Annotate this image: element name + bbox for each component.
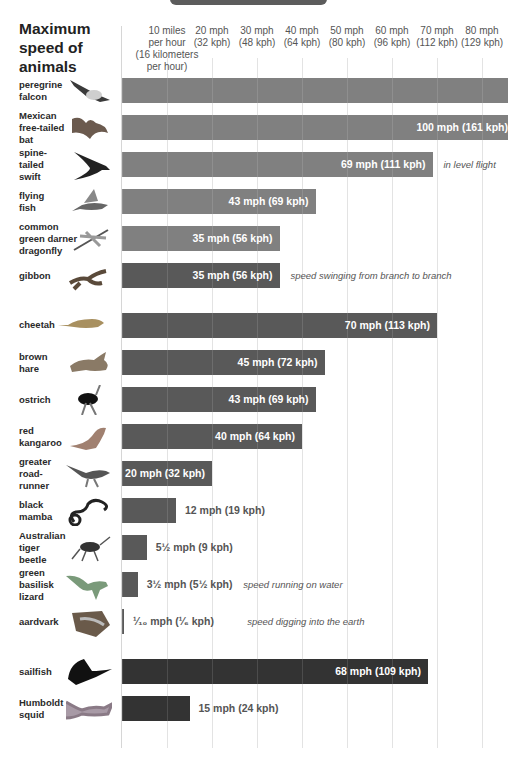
tick-label: 30 mph(48 kph): [239, 25, 276, 49]
bar: [122, 535, 147, 560]
row-label: gibbon: [19, 270, 51, 282]
row-label: greaterroad-runner: [19, 456, 51, 492]
bar-value: 3½ mph (5½ kph): [147, 572, 233, 597]
bar: [122, 498, 176, 523]
kangaroo-icon: [66, 422, 112, 452]
ostrich-icon: [66, 385, 112, 415]
row-label: sailfish: [19, 666, 52, 678]
bar-note: in level flight: [444, 152, 496, 177]
bar-value: 35 mph (56 kph): [193, 226, 273, 251]
tick-label: 40 mph(64 kph): [284, 25, 321, 49]
bar-value: 43 mph (69 kph): [229, 387, 309, 412]
row-label: brownhare: [19, 351, 48, 375]
row-label: ostrich: [19, 394, 51, 406]
sailfish-icon: [66, 657, 112, 687]
bar-value: 35 mph (56 kph): [193, 263, 273, 288]
bat-icon: [66, 113, 112, 143]
row-label: aardvark: [19, 616, 59, 628]
bar: [122, 609, 124, 634]
tick-label: 60 mph(96 kph): [374, 25, 411, 49]
bar-value: 20 mph (32 kph): [125, 461, 205, 486]
bar-value: 40 mph (64 kph): [215, 424, 295, 449]
bar: [122, 78, 508, 103]
bar-value: 12 mph (19 kph): [185, 498, 265, 523]
bar-value: 15 mph (24 kph): [199, 696, 279, 721]
lizard-icon: [66, 570, 112, 600]
bar-value: 100 mph (161 kph): [416, 115, 508, 140]
bar-value: 45 mph (72 kph): [238, 350, 318, 375]
snake-icon: [66, 496, 112, 526]
row-label: Mexicanfree-tailedbat: [19, 110, 64, 146]
bar-value: 68 mph (109 kph): [335, 659, 421, 684]
bar-value: 69 mph (111 kph): [341, 152, 426, 177]
swift-icon: [66, 150, 112, 180]
bar: [122, 696, 190, 721]
bar: [122, 572, 138, 597]
gridline: [437, 58, 438, 748]
row-label: peregrinefalcon: [19, 79, 62, 103]
bar-value: 5½ mph (9 kph): [156, 535, 233, 560]
aardvark-icon: [66, 607, 112, 637]
row-label: Humboldtsquid: [19, 697, 63, 721]
header-banner: [170, 0, 327, 5]
bar-value: ¹⁄₁₀ mph (¹⁄₆ kph): [133, 609, 214, 634]
tick-label: 50 mph(80 kph): [329, 25, 366, 49]
dragonfly-icon: [66, 224, 112, 254]
tick-label: 10 milesper hour(16 kilometersper hour): [136, 25, 199, 73]
tick-label: 80 mph(129 kph): [461, 25, 503, 49]
gibbon-icon: [66, 261, 112, 291]
row-label: blackmamba: [19, 499, 52, 523]
bar-note: speed running on water: [243, 572, 342, 597]
row-label: cheetah: [19, 319, 55, 331]
row-label: flyingfish: [19, 190, 44, 214]
tick-label: 20 mph(32 kph): [194, 25, 231, 49]
cheetah-icon: [58, 311, 104, 341]
chart-title: Maximum speed of animals: [19, 19, 119, 76]
roadrunner-icon: [66, 459, 112, 489]
bar-note: speed swinging from branch to branch: [291, 263, 452, 288]
bar-value: 70 mph (113 kph): [345, 313, 430, 338]
bar-value: 43 mph (69 kph): [229, 189, 309, 214]
tick-label: 70 mph(112 kph): [416, 25, 458, 49]
row-label: redkangaroo: [19, 425, 62, 449]
row-label: greenbasilisklizard: [19, 567, 54, 603]
row-label: spine-tailedswift: [19, 147, 47, 183]
flying-fish-icon: [66, 187, 112, 217]
beetle-icon: [66, 533, 112, 563]
bar-note: speed digging into the earth: [247, 609, 364, 634]
row-label: Australiantigerbeetle: [19, 530, 65, 566]
falcon-icon: [66, 76, 112, 106]
hare-icon: [66, 348, 112, 378]
squid-icon: [66, 694, 112, 724]
